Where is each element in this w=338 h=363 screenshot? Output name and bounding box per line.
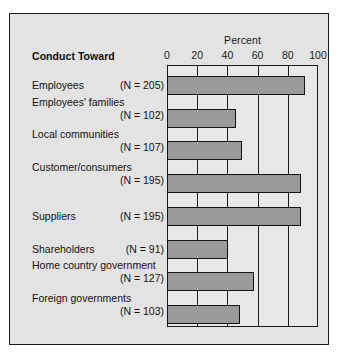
- category-label-row: Foreign governments(N = 103): [32, 292, 164, 317]
- bar: [167, 240, 228, 259]
- category-sample-size: (N = 91): [126, 243, 164, 255]
- category-label-row: Local communities(N = 107): [32, 128, 164, 153]
- category-sample-size: (N = 195): [120, 210, 164, 222]
- x-tick-label-60: 60: [252, 49, 264, 61]
- category-name: Shareholders: [32, 243, 94, 255]
- category-name: Employees' families: [32, 96, 164, 108]
- bar: [167, 207, 301, 226]
- category-label-row: Shareholders(N = 91): [32, 243, 164, 255]
- bar: [167, 141, 242, 160]
- category-label-row: Home country government(N = 127): [32, 259, 164, 284]
- x-tick-label-100: 100: [309, 49, 327, 61]
- column-heading-conduct-toward: Conduct Toward: [32, 50, 115, 62]
- category-sample-size: (N = 127): [32, 272, 164, 284]
- bar: [167, 272, 254, 291]
- category-label-row: Suppliers(N = 195): [32, 210, 164, 222]
- x-tick-label-80: 80: [282, 49, 294, 61]
- category-name: Home country government: [32, 259, 164, 271]
- category-label-row: Employees(N = 205): [32, 79, 164, 91]
- x-tick-label-20: 20: [191, 49, 203, 61]
- bar: [167, 305, 240, 324]
- category-label-row: Customer/consumers(N = 195): [32, 161, 164, 186]
- category-sample-size: (N = 205): [120, 79, 164, 91]
- x-tick-label-40: 40: [222, 49, 234, 61]
- chart-figure: Percent Conduct Toward 020406080100 Empl…: [9, 13, 329, 345]
- category-sample-size: (N = 107): [32, 141, 164, 153]
- plot-area: [167, 65, 318, 327]
- category-name: Suppliers: [32, 210, 76, 222]
- bar: [167, 174, 301, 193]
- bar: [167, 109, 236, 128]
- category-label-row: Employees' families(N = 102): [32, 96, 164, 121]
- x-tick-label-0: 0: [164, 49, 170, 61]
- category-sample-size: (N = 195): [32, 174, 164, 186]
- category-name: Employees: [32, 79, 84, 91]
- x-axis-tick-labels: 020406080100: [167, 49, 318, 63]
- category-sample-size: (N = 103): [32, 305, 164, 317]
- category-name: Local communities: [32, 128, 164, 140]
- bar-series: [168, 66, 317, 326]
- axis-title-percent: Percent: [167, 34, 318, 46]
- category-name: Foreign governments: [32, 292, 164, 304]
- bar: [167, 76, 305, 95]
- category-name: Customer/consumers: [32, 161, 164, 173]
- category-sample-size: (N = 102): [32, 109, 164, 121]
